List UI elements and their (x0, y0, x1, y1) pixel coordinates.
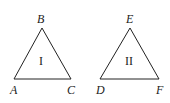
triangle-1-label: I (39, 54, 43, 68)
vertex-a-label: A (9, 83, 18, 97)
triangle-2-label: II (125, 54, 133, 68)
vertex-f-label: F (155, 83, 164, 97)
vertex-b-label: B (37, 12, 45, 26)
vertex-c-label: C (67, 83, 76, 97)
vertex-e-label: E (125, 12, 134, 26)
vertex-d-label: D (95, 83, 105, 97)
triangle-1: B A C I (9, 12, 76, 97)
triangle-2: E D F II (95, 12, 164, 97)
triangles-diagram: B A C I E D F II (0, 0, 170, 103)
